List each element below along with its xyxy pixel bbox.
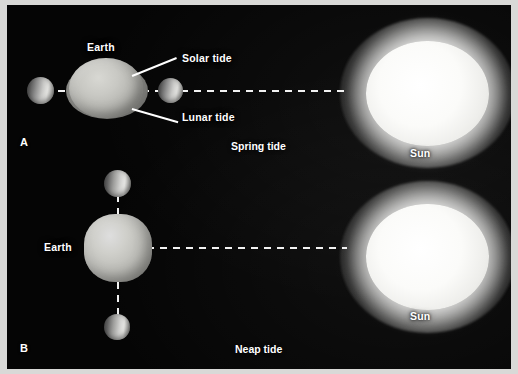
moon-a-right <box>158 78 183 103</box>
lunar-tide-label: Lunar tide <box>182 111 235 123</box>
alignment-line-b-bottom <box>117 282 119 318</box>
moon-b-top <box>104 170 131 197</box>
moon-b-bottom <box>104 314 130 340</box>
panel-label-a: A <box>20 136 28 148</box>
spring-tide-caption: Spring tide <box>231 140 286 152</box>
earth-label-b: Earth <box>44 241 72 253</box>
alignment-line-b-sun <box>147 247 347 249</box>
diagram-plate: Earth Solar tide Lunar tide Sun Spring t… <box>7 5 511 369</box>
earth-b <box>84 214 152 282</box>
sun-a <box>340 18 511 168</box>
sun-label-b: Sun <box>410 310 430 322</box>
sun-label-a: Sun <box>410 147 430 159</box>
panel-label-b: B <box>20 342 28 354</box>
tide-diagram-figure: Earth Solar tide Lunar tide Sun Spring t… <box>0 0 518 374</box>
neap-tide-caption: Neap tide <box>235 343 282 355</box>
moon-a-left <box>27 77 54 104</box>
sun-a-core <box>366 41 489 146</box>
solar-tide-label: Solar tide <box>182 52 232 64</box>
sun-b-core <box>366 204 489 310</box>
earth-label-a: Earth <box>87 41 115 53</box>
